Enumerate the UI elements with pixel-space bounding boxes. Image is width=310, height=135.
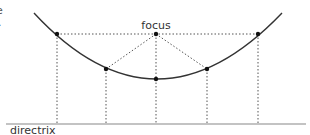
parabola-point-5 bbox=[256, 32, 260, 36]
directrix-label: directrix bbox=[10, 124, 56, 135]
focus-to-point-2 bbox=[106, 34, 156, 69]
parabola-point-1 bbox=[55, 32, 59, 36]
parabola-vertex bbox=[154, 77, 158, 81]
parabola-point-4 bbox=[205, 67, 209, 71]
parabola-point-2 bbox=[104, 67, 108, 71]
clipped-text-2: . bbox=[0, 16, 2, 29]
parabola-diagram: e . directrix focus bbox=[0, 0, 310, 135]
focus-point bbox=[154, 32, 158, 36]
focus-label: focus bbox=[141, 19, 171, 32]
focus-to-point-4 bbox=[156, 34, 207, 69]
